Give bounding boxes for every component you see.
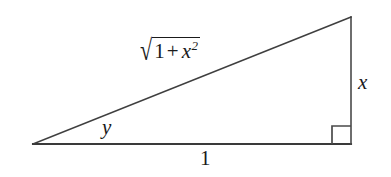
angle-label: y <box>102 117 111 138</box>
radicand-variable: x <box>181 39 191 63</box>
triangle-diagram: √1+x2 x y 1 <box>0 0 391 177</box>
radical-sign-icon: √ <box>140 37 152 66</box>
radicand-base: 1 <box>154 39 165 63</box>
radicand-exponent: 2 <box>191 38 198 53</box>
right-angle-marker <box>332 126 351 144</box>
triangle-shape <box>0 0 391 177</box>
vertical-leg-label: x <box>358 72 367 93</box>
hypotenuse-label: √1+x2 <box>138 38 200 66</box>
base-leg-label: 1 <box>200 148 211 169</box>
radicand-operator: + <box>165 39 181 63</box>
